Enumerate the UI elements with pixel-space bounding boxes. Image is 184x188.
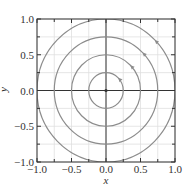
x-tick-label: 0.5	[134, 163, 148, 175]
x-tick-label: 1.0	[168, 163, 182, 175]
y-tick-label: −0.5	[14, 120, 34, 132]
y-tick-label: −1.0	[14, 156, 34, 168]
y-tick-label: 1.0	[20, 13, 34, 25]
x-tick-label: −0.5	[62, 163, 82, 175]
direction-arrow-icons	[118, 40, 159, 82]
equilibrium-point	[104, 89, 107, 92]
y-tick-label: 0.0	[20, 85, 34, 97]
y-tick-label: 0.5	[20, 49, 34, 61]
y-axis-label: y	[0, 87, 9, 93]
y-tick-labels: −1.0−0.50.00.51.0	[14, 13, 34, 168]
x-axis-label: x	[103, 174, 109, 186]
phase-portrait-chart: −1.0−0.50.00.51.0 −1.0−0.50.00.51.0 x y	[0, 0, 184, 188]
